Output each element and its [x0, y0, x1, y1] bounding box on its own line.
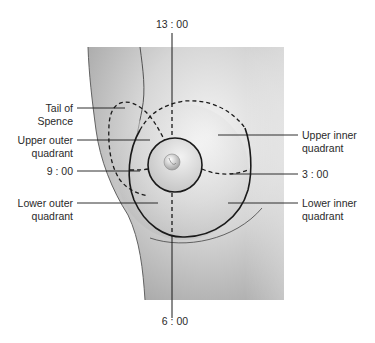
label-6-00: 6 : 00: [162, 315, 188, 327]
label-upper-inner-line2: quadrant: [302, 142, 344, 154]
label-upper-outer-line1: Upper outer: [18, 134, 74, 146]
label-upper-inner-line1: Upper inner: [302, 129, 357, 141]
label-13-00: 13 : 00: [156, 18, 188, 30]
label-lower-outer-line2: quadrant: [32, 210, 74, 222]
label-3-00: 3 : 00: [302, 168, 328, 180]
breast-quadrant-diagram: 13 : 00 6 : 00 9 : 00 3 : 00 Tail of Spe…: [0, 0, 375, 343]
label-lower-inner-line2: quadrant: [302, 210, 344, 222]
label-lower-inner-line1: Lower inner: [302, 197, 357, 209]
nipple: [164, 154, 180, 170]
label-lower-outer-line1: Lower outer: [18, 197, 74, 209]
label-tail-of-spence-line2: Spence: [37, 115, 73, 127]
label-9-00: 9 : 00: [47, 165, 73, 177]
label-upper-outer-line2: quadrant: [32, 147, 74, 159]
label-tail-of-spence-line1: Tail of: [46, 102, 74, 114]
